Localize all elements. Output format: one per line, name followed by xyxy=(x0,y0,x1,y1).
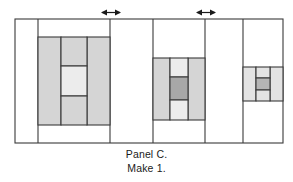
medium-block-center-bottom xyxy=(170,100,188,120)
seam-arrow-left-head-west xyxy=(101,9,107,15)
medium-block-right-bar xyxy=(188,58,205,120)
caption-line-panel: Panel C. xyxy=(0,148,293,162)
seam-arrow-left xyxy=(101,9,121,15)
small-block-center-square xyxy=(256,78,270,90)
caption-line-make: Make 1. xyxy=(0,162,293,176)
small-block-left-bar xyxy=(243,67,256,101)
seam-arrow-right xyxy=(196,9,216,15)
medium-block-left-bar xyxy=(153,58,170,120)
medium-block-center-square xyxy=(170,77,188,100)
medium-block-center-top xyxy=(170,58,188,77)
large-block-center-top xyxy=(61,37,87,66)
figure-caption: Panel C. Make 1. xyxy=(0,148,293,175)
large-block-left-bar xyxy=(38,37,61,125)
seam-arrow-right-head-west xyxy=(196,9,202,15)
large-block-right-bar xyxy=(87,37,110,125)
small-nine-patch-block xyxy=(243,67,283,101)
seam-arrow-right-head-east xyxy=(210,9,216,15)
large-block-center-bottom xyxy=(61,96,87,125)
medium-nine-patch-block xyxy=(153,58,205,120)
small-block-center-bottom xyxy=(256,90,270,101)
seam-arrow-left-head-east xyxy=(115,9,121,15)
large-nine-patch-block xyxy=(38,37,110,125)
small-block-center-top xyxy=(256,67,270,78)
small-block-right-bar xyxy=(270,67,283,101)
large-block-center-square xyxy=(61,66,87,96)
